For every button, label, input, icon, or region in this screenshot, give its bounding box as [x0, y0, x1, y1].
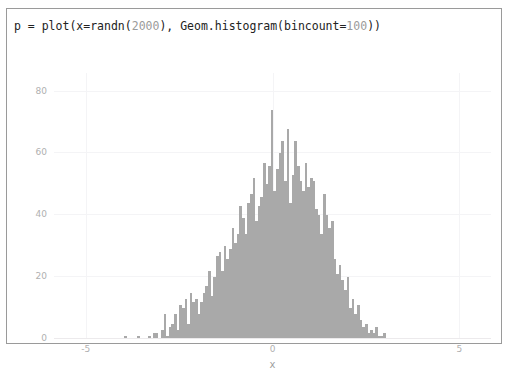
code-arg-bincount: 100 [346, 19, 367, 33]
x-axis-title: x [54, 359, 491, 370]
y-tick-label: 20 [21, 272, 47, 281]
code-line: p = plot(x=randn(2000), Geom.histogram(b… [14, 16, 484, 36]
plot-drawing-area [54, 73, 491, 339]
code-suffix: )) [367, 19, 381, 33]
x-tick-label: 0 [270, 343, 276, 355]
code-arg-sample-size: 2000 [132, 19, 160, 33]
x-tick-label: -5 [81, 343, 90, 355]
plot-panel: p = plot(x=randn(2000), Geom.histogram(b… [6, 8, 502, 344]
x-axis-ticks: -505 [54, 343, 491, 359]
code-middle: ), Geom.histogram(bincount= [159, 19, 346, 33]
code-prefix: p = plot(x=randn( [14, 19, 132, 33]
y-tick-label: 80 [21, 87, 47, 96]
y-axis-ticks: 020406080 [15, 73, 47, 339]
histogram-plot: 020406080 -505 x [7, 37, 501, 343]
y-tick-label: 40 [21, 210, 47, 219]
axis-baseline [54, 338, 491, 339]
y-tick-label: 60 [21, 148, 47, 157]
y-tick-label: 0 [21, 334, 47, 343]
x-tick-label: 5 [456, 343, 462, 355]
histogram-bars [54, 73, 491, 339]
